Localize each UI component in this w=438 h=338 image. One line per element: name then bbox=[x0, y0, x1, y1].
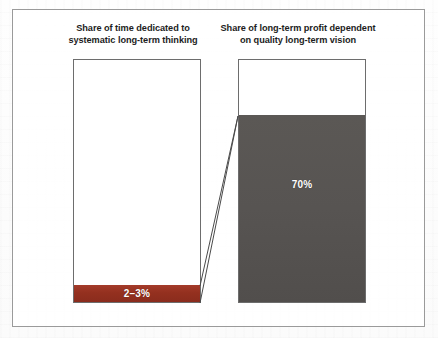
bar-right-fill: 70% bbox=[239, 115, 365, 302]
bar-left-value-label: 2–3% bbox=[124, 288, 150, 299]
panel-right-title: Share of long-term profit dependent on q… bbox=[209, 23, 387, 46]
panel-right-title-line2: on quality long-term vision bbox=[209, 35, 387, 47]
figure-frame: Share of time dedicated to systematic lo… bbox=[12, 9, 425, 327]
panel-left-title: Share of time dedicated to systematic lo… bbox=[44, 23, 222, 46]
bar-right-outline: 70% bbox=[238, 59, 366, 303]
bar-right-value-label: 70% bbox=[239, 179, 365, 190]
panel-right-title-line1: Share of long-term profit dependent bbox=[209, 23, 387, 35]
panel-left-title-line2: systematic long-term thinking bbox=[44, 35, 222, 47]
bar-left-outline: 2–3% bbox=[73, 59, 201, 303]
panel-left-title-line1: Share of time dedicated to bbox=[44, 23, 222, 35]
bar-left-fill: 2–3% bbox=[74, 285, 200, 302]
